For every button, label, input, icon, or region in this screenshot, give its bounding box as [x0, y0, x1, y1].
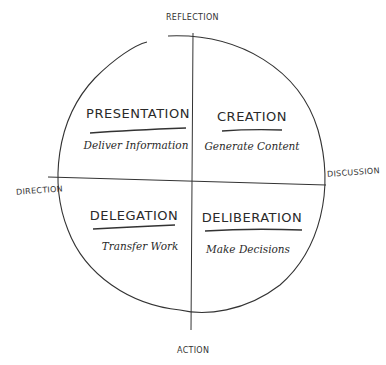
underline-presentation: [90, 128, 186, 133]
underline-deliberation: [205, 229, 302, 231]
diagram-lines: [0, 0, 386, 365]
quadrant-subtitle-deliberation: Make Decisions: [206, 243, 290, 255]
quadrant-subtitle-presentation: Deliver Information: [84, 139, 189, 151]
underline-creation: [222, 130, 282, 131]
quadrant-title-deliberation: DELIBERATION: [202, 210, 303, 225]
quadrant-title-presentation: PRESENTATION: [86, 106, 190, 121]
underline-delegation: [93, 225, 175, 229]
axis-label-top: REFLECTION: [166, 13, 219, 22]
quadrant-subtitle-creation: Generate Content: [204, 140, 299, 152]
quadrant-subtitle-delegation: Transfer Work: [102, 240, 179, 252]
quadrant-diagram: REFLECTION ACTION DIRECTION DISCUSSION P…: [0, 0, 386, 365]
axis-label-bottom: ACTION: [177, 346, 209, 355]
quadrant-title-delegation: DELEGATION: [90, 208, 178, 223]
quadrant-title-creation: CREATION: [217, 109, 287, 124]
horizontal-axis-line: [48, 177, 326, 185]
